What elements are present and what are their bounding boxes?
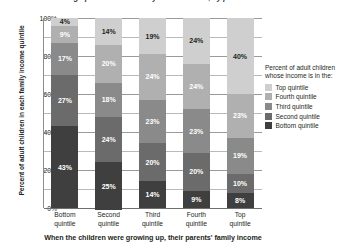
- chart-title: Chances of moving up or down the family …: [10, 0, 330, 2]
- bar-segment-label: 24%: [145, 73, 159, 80]
- bar-segment[interactable]: 9%: [51, 26, 78, 43]
- bar-segment-label: 9%: [60, 31, 70, 38]
- bar-segment-label: 24%: [189, 37, 203, 44]
- bar-segment-label: 20%: [145, 159, 159, 166]
- x-tick-label-line: Bottom: [54, 211, 75, 218]
- legend-item[interactable]: Top quintile: [265, 84, 337, 91]
- legend-swatch-icon: [265, 122, 272, 129]
- bar-segment[interactable]: 10%: [227, 174, 254, 193]
- x-tick-label: Topquintile: [213, 211, 267, 228]
- bar-segment[interactable]: 24%: [139, 54, 166, 100]
- y-axis-title: Percent of adult children in each family…: [18, 11, 25, 211]
- legend-item-label: Second quintile: [276, 113, 320, 120]
- bar-segment-label: 9%: [191, 196, 201, 203]
- legend-item[interactable]: Second quintile: [265, 113, 337, 120]
- bar-segment-label: 8%: [235, 197, 245, 204]
- bar-segment[interactable]: 23%: [139, 100, 166, 144]
- bar-segment[interactable]: 23%: [183, 109, 210, 153]
- gridline-0: [44, 208, 262, 209]
- legend-title: Percent of adult children whose income i…: [265, 64, 337, 81]
- bar-segment[interactable]: 25%: [95, 162, 122, 210]
- bar-segment-label: 19%: [145, 33, 159, 40]
- legend-item-label: Third quintile: [276, 103, 313, 110]
- legend-swatch-icon: [265, 103, 272, 110]
- bar-segment-label: 17%: [58, 55, 72, 62]
- bar-column[interactable]: 40%23%19%10%8%: [227, 18, 254, 208]
- bar-segment-label: 43%: [58, 164, 72, 171]
- bar-segment-label: 24%: [102, 136, 116, 143]
- bar-segment[interactable]: 27%: [51, 75, 78, 126]
- bar-segment[interactable]: 24%: [183, 64, 210, 110]
- bar-segment[interactable]: 17%: [51, 43, 78, 75]
- bar-segment[interactable]: 8%: [227, 193, 254, 208]
- bar-segment-label: 20%: [189, 168, 203, 175]
- bar-segment[interactable]: 19%: [139, 18, 166, 54]
- x-tick-label-line: Second: [97, 211, 120, 218]
- bar-segment[interactable]: 18%: [95, 83, 122, 117]
- legend-item[interactable]: Third quintile: [265, 103, 337, 110]
- bar-segment[interactable]: 14%: [139, 181, 166, 208]
- bar-segment-label: 25%: [102, 183, 116, 190]
- bar-segment[interactable]: 9%: [183, 191, 210, 208]
- legend-swatch-icon: [265, 84, 272, 91]
- legend-items: Top quintileFourth quintileThird quintil…: [265, 84, 337, 129]
- bar-segment[interactable]: 40%: [227, 18, 254, 94]
- bar-segment-label: 20%: [102, 60, 116, 67]
- bar-segment-label: 24%: [189, 83, 203, 90]
- legend-item[interactable]: Bottom quintile: [265, 122, 337, 129]
- bar-segment[interactable]: 43%: [51, 126, 78, 208]
- legend-swatch-icon: [265, 93, 272, 100]
- bar-segment-label: 4%: [60, 18, 70, 25]
- bar-column[interactable]: 4%9%17%27%43%: [51, 18, 78, 208]
- x-tick-label-line: quintile: [213, 220, 267, 229]
- x-tick-label-line: Third: [145, 211, 160, 218]
- bar-segment[interactable]: 20%: [139, 143, 166, 181]
- bar-column[interactable]: 19%24%23%20%14%: [139, 18, 166, 208]
- stacked-bar-group: 4%9%17%27%43%14%20%18%24%25%19%24%23%20%…: [43, 18, 262, 208]
- bar-segment-label: 23%: [145, 118, 159, 125]
- bar-segment-label: 10%: [233, 180, 247, 187]
- x-axis-title: When the children were growing up, their…: [8, 233, 298, 242]
- legend-item-label: Top quintile: [276, 84, 309, 91]
- bar-segment[interactable]: 24%: [183, 18, 210, 64]
- bar-column[interactable]: 24%24%23%20%9%: [183, 18, 210, 208]
- bar-segment[interactable]: 24%: [95, 117, 122, 163]
- x-tick-label-line: Top: [235, 211, 246, 218]
- bar-segment[interactable]: 20%: [183, 153, 210, 191]
- chart-legend: Percent of adult children whose income i…: [265, 64, 337, 132]
- bar-segment-label: 40%: [233, 53, 247, 60]
- bar-segment-label: 19%: [233, 152, 247, 159]
- legend-item[interactable]: Fourth quintile: [265, 93, 337, 100]
- bar-segment-label: 14%: [145, 191, 159, 198]
- legend-item-label: Bottom quintile: [276, 122, 319, 129]
- bar-segment[interactable]: 20%: [95, 45, 122, 83]
- bar-segment-label: 14%: [102, 28, 116, 35]
- bar-column[interactable]: 14%20%18%24%25%: [95, 18, 122, 208]
- legend-swatch-icon: [265, 113, 272, 120]
- bar-segment-label: 23%: [189, 128, 203, 135]
- bar-segment[interactable]: 14%: [95, 18, 122, 45]
- bar-segment-label: 27%: [58, 97, 72, 104]
- bar-segment[interactable]: 4%: [51, 18, 78, 26]
- bar-segment-label: 18%: [102, 96, 116, 103]
- bar-segment[interactable]: 19%: [227, 138, 254, 174]
- legend-item-label: Fourth quintile: [276, 93, 317, 100]
- bar-segment-label: 23%: [233, 112, 247, 119]
- x-tick-label-line: Fourth: [187, 211, 206, 218]
- bar-segment[interactable]: 23%: [227, 94, 254, 138]
